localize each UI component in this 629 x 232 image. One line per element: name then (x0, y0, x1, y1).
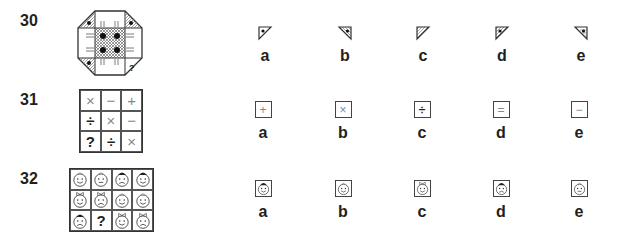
grid-cell: − (101, 90, 122, 111)
neutral-face-icon (92, 170, 110, 188)
option-symbol: = (493, 101, 510, 118)
hat-frown-face-icon (494, 181, 509, 196)
option-face-box (414, 180, 431, 197)
puzzle-30-octagon: ? (77, 10, 143, 76)
option-label: b (323, 124, 363, 142)
triangle-figure-icon (415, 25, 431, 41)
option-31-d[interactable]: = d (481, 101, 521, 142)
option-face-box (571, 180, 588, 197)
grid-cell: + (121, 90, 142, 111)
smiling-face-icon (71, 170, 89, 188)
grid-cell (91, 169, 112, 190)
grid-cell: − (121, 111, 142, 132)
missing-marker: ? (97, 212, 106, 229)
puzzle-32-grid: ? (69, 168, 154, 232)
option-label: e (559, 203, 599, 221)
bow-smile-face-icon (415, 181, 430, 196)
question-number-30: 30 (20, 12, 38, 30)
grid-cell (70, 190, 91, 211)
option-31-a[interactable]: + a (243, 101, 283, 142)
smiling-face-icon (336, 181, 351, 196)
option-label: d (481, 124, 521, 142)
option-30-d[interactable]: d (482, 25, 522, 65)
option-label: e (561, 47, 601, 65)
triangle-figure-icon (257, 25, 273, 41)
option-32-d[interactable]: d (481, 180, 521, 221)
question-number-31: 31 (20, 91, 38, 109)
option-symbol: + (255, 101, 272, 118)
hat-smile-face-icon (256, 181, 271, 196)
bow-frown-face-icon (134, 212, 152, 230)
missing-marker: ? (129, 63, 135, 73)
grid-cell-missing: ? (91, 210, 112, 231)
option-31-c[interactable]: ÷ c (402, 101, 442, 142)
option-label: a (243, 124, 283, 142)
hat-smile-face-icon (134, 170, 152, 188)
grid-cell: ÷ (101, 131, 122, 152)
option-face-box (493, 180, 510, 197)
option-label: a (243, 203, 283, 221)
bow-smile-face-icon (113, 212, 131, 230)
grid-cell: ÷ (80, 111, 101, 132)
option-symbol: × (335, 101, 352, 118)
hat-frown-face-icon (71, 212, 89, 230)
neutral-face-icon (572, 181, 587, 196)
option-face-box (255, 180, 272, 197)
grid-cell (132, 210, 153, 231)
grid-cell: × (101, 111, 122, 132)
grid-cell (70, 169, 91, 190)
bow-frown-face-icon (92, 191, 110, 209)
option-symbol: − (571, 101, 588, 118)
option-label: c (402, 124, 442, 142)
option-symbol: ÷ (414, 101, 431, 118)
triangle-figure-icon (337, 25, 353, 41)
triangle-figure-icon (494, 25, 510, 41)
option-label: e (559, 124, 599, 142)
grid-cell (112, 210, 133, 231)
option-label: b (325, 47, 365, 65)
option-32-a[interactable]: a (243, 180, 283, 221)
option-30-c[interactable]: c (403, 25, 443, 65)
bow-smile-face-icon (71, 191, 89, 209)
smiling-face-icon (134, 191, 152, 209)
puzzle-31-grid: × − + ÷ × − ? ÷ × (79, 89, 143, 153)
question-number-32: 32 (20, 170, 38, 188)
grid-cell: × (121, 131, 142, 152)
option-face-box (335, 180, 352, 197)
option-31-b[interactable]: × b (323, 101, 363, 142)
option-label: d (481, 203, 521, 221)
grid-cell (112, 169, 133, 190)
option-label: d (482, 47, 522, 65)
option-32-c[interactable]: c (402, 180, 442, 221)
triangle-figure-icon (573, 25, 589, 41)
grid-cell (70, 210, 91, 231)
smiling-face-icon (113, 191, 131, 209)
option-label: c (403, 47, 443, 65)
grid-cell: × (80, 90, 101, 111)
option-31-e[interactable]: − e (559, 101, 599, 142)
option-30-e[interactable]: e (561, 25, 601, 65)
option-30-a[interactable]: a (245, 25, 285, 65)
option-label: a (245, 47, 285, 65)
option-32-e[interactable]: e (559, 180, 599, 221)
option-label: b (323, 203, 363, 221)
option-label: c (402, 203, 442, 221)
grid-cell-missing: ? (80, 131, 101, 152)
option-30-b[interactable]: b (325, 25, 365, 65)
grid-cell (132, 190, 153, 211)
hat-frown-face-icon (113, 170, 131, 188)
option-32-b[interactable]: b (323, 180, 363, 221)
grid-cell (132, 169, 153, 190)
grid-cell (91, 190, 112, 211)
grid-cell (112, 190, 133, 211)
